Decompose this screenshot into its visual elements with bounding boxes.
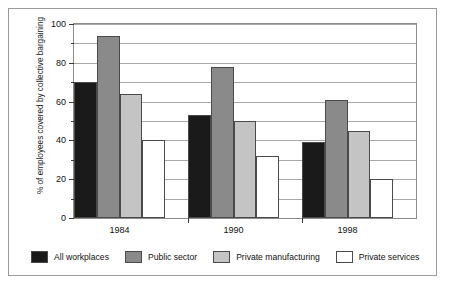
legend-item-all-workplaces[interactable]: All workplaces <box>31 251 109 263</box>
y-axis-tick <box>69 63 74 64</box>
y-axis-label: 20 <box>56 174 66 184</box>
legend-swatch-icon <box>31 251 48 263</box>
legend-item-private-manufacturing[interactable]: Private manufacturing <box>213 251 320 263</box>
plot-inner: 020406080100198419901998 <box>74 24 416 218</box>
gridline <box>74 63 416 64</box>
y-axis-label: 100 <box>51 19 66 29</box>
bar-1984-public-sector <box>97 36 120 218</box>
bar-1998-public-sector <box>325 100 348 218</box>
bar-1998-private-manufacturing <box>348 131 371 218</box>
bar-1990-public-sector <box>211 67 234 218</box>
bar-1990-all-workplaces <box>188 115 211 218</box>
y-axis-label: 60 <box>56 97 66 107</box>
legend-item-private-services[interactable]: Private services <box>336 251 420 263</box>
bar-1990-private-services <box>256 156 279 218</box>
legend-label: All workplaces <box>54 252 109 262</box>
bar-1984-private-services <box>142 140 165 218</box>
gridline <box>74 82 416 83</box>
y-axis-minor-tick <box>71 43 74 44</box>
legend-swatch-icon <box>336 251 353 263</box>
x-axis-label-1998: 1998 <box>338 225 358 235</box>
chart-legend: All workplacesPublic sectorPrivate manuf… <box>31 251 435 263</box>
bar-1998-all-workplaces <box>302 142 325 218</box>
chart-frame: % of employees covered by collective bar… <box>8 8 437 276</box>
bar-1990-private-manufacturing <box>234 121 257 218</box>
x-axis-group-separator <box>188 218 189 223</box>
bar-1984-all-workplaces <box>74 82 97 218</box>
legend-label: Private services <box>359 252 420 262</box>
y-axis-label: 80 <box>56 58 66 68</box>
legend-swatch-icon <box>125 251 142 263</box>
gridline <box>74 43 416 44</box>
x-axis-group-separator <box>302 218 303 223</box>
bar-1998-private-services <box>370 179 393 218</box>
legend-label: Private manufacturing <box>236 252 320 262</box>
y-axis-title: % of employees covered by collective bar… <box>36 11 45 201</box>
legend-swatch-icon <box>213 251 230 263</box>
y-axis-label: 0 <box>61 213 66 223</box>
gridline <box>74 24 416 25</box>
plot-area: 020406080100198419901998 <box>73 23 417 219</box>
legend-item-public-sector[interactable]: Public sector <box>125 251 197 263</box>
y-axis-tick <box>69 218 74 219</box>
y-axis-tick <box>69 24 74 25</box>
y-axis-label: 40 <box>56 135 66 145</box>
bar-1984-private-manufacturing <box>120 94 143 218</box>
legend-label: Public sector <box>148 252 197 262</box>
x-axis-label-1990: 1990 <box>224 225 244 235</box>
x-axis-label-1984: 1984 <box>110 225 130 235</box>
